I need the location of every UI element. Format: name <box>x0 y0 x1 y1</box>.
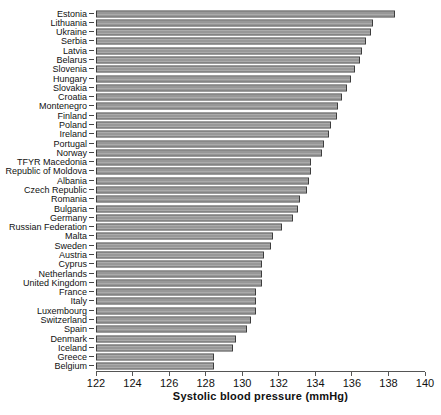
chart-row: Cyprus <box>96 260 424 269</box>
chart-row: Finland <box>96 111 424 120</box>
chart-row: Ukraine <box>96 28 424 37</box>
chart-row: Belarus <box>96 55 424 64</box>
chart-row: Bulgaria <box>96 204 424 213</box>
y-tick-mark <box>89 291 94 292</box>
bar <box>96 122 331 129</box>
y-tick-mark <box>89 87 94 88</box>
bar <box>96 289 256 296</box>
y-tick-mark <box>89 143 94 144</box>
chart-row: Portugal <box>96 139 424 148</box>
bar <box>96 335 236 342</box>
y-tick-mark <box>89 245 94 246</box>
x-tick-label: 136 <box>343 377 361 389</box>
bar <box>96 270 262 277</box>
y-tick-mark <box>89 115 94 116</box>
chart-row: Germany <box>96 213 424 222</box>
bar <box>96 149 322 156</box>
chart-row: Norway <box>96 148 424 157</box>
y-tick-mark <box>89 170 94 171</box>
bar <box>96 94 342 101</box>
chart-row: Czech Republic <box>96 185 424 194</box>
y-tick-mark <box>89 254 94 255</box>
y-tick-mark <box>89 105 94 106</box>
bar <box>96 66 355 73</box>
y-tick-mark <box>89 263 94 264</box>
chart-row: Poland <box>96 120 424 129</box>
bar <box>96 196 300 203</box>
x-tick-mark <box>205 372 206 376</box>
bar <box>96 38 366 45</box>
bar <box>96 186 307 193</box>
chart-row: Iceland <box>96 343 424 352</box>
chart-row: Ireland <box>96 130 424 139</box>
y-tick-mark <box>89 310 94 311</box>
bar <box>96 205 298 212</box>
y-tick-mark <box>89 347 94 348</box>
bar <box>96 214 293 221</box>
y-tick-mark <box>89 180 94 181</box>
y-tick-mark <box>89 198 94 199</box>
chart-row: United Kingdom <box>96 278 424 287</box>
chart-row: Latvia <box>96 46 424 55</box>
chart-row: Austria <box>96 250 424 259</box>
y-tick-mark <box>89 208 94 209</box>
y-tick-mark <box>89 161 94 162</box>
chart-row: Spain <box>96 325 424 334</box>
bar <box>96 84 347 91</box>
x-tick-mark <box>169 372 170 376</box>
chart-row: Lithuania <box>96 18 424 27</box>
bar <box>96 103 338 110</box>
x-tick-label: 140 <box>416 377 434 389</box>
chart-row: Albania <box>96 176 424 185</box>
bar <box>96 279 262 286</box>
bar <box>96 159 311 166</box>
chart-row: Russian Federation <box>96 222 424 231</box>
chart-row: Estonia <box>96 9 424 18</box>
x-tick-label: 126 <box>160 377 178 389</box>
chart-row: Netherlands <box>96 269 424 278</box>
x-tick-mark <box>278 372 279 376</box>
country-label: Belgium <box>54 362 87 371</box>
chart-row: Serbia <box>96 37 424 46</box>
x-tick-label: 132 <box>270 377 288 389</box>
y-tick-mark <box>89 68 94 69</box>
x-tick-label: 128 <box>196 377 214 389</box>
chart-row: France <box>96 287 424 296</box>
bar <box>96 233 273 240</box>
bar <box>96 363 214 370</box>
y-tick-mark <box>89 365 94 366</box>
chart-row: Montenegro <box>96 102 424 111</box>
bar <box>96 242 271 249</box>
chart-row: Hungary <box>96 74 424 83</box>
bar <box>96 251 264 258</box>
bar <box>96 57 360 64</box>
chart-row: Slovenia <box>96 65 424 74</box>
bar <box>96 298 256 305</box>
x-tick-label: 138 <box>379 377 397 389</box>
chart-row: Romania <box>96 195 424 204</box>
x-axis-title: Systolic blood pressure (mmHg) <box>96 390 425 402</box>
y-tick-mark <box>89 217 94 218</box>
x-tick-mark <box>242 372 243 376</box>
bar <box>96 131 329 138</box>
bar <box>96 307 256 314</box>
y-tick-mark <box>89 338 94 339</box>
bar <box>96 47 362 54</box>
chart-row: TFYR Macedonia <box>96 158 424 167</box>
x-tick-mark <box>425 372 426 376</box>
bar <box>96 224 282 231</box>
bar <box>96 344 233 351</box>
x-tick-mark <box>315 372 316 376</box>
y-tick-mark <box>89 50 94 51</box>
y-tick-mark <box>89 226 94 227</box>
chart-row: Switzerland <box>96 315 424 324</box>
chart-row: Greece <box>96 352 424 361</box>
bar <box>96 29 371 36</box>
x-tick-mark <box>132 372 133 376</box>
bar <box>96 177 309 184</box>
chart-row: Croatia <box>96 93 424 102</box>
y-tick-mark <box>89 78 94 79</box>
y-tick-mark <box>89 59 94 60</box>
chart-row: Belgium <box>96 362 424 371</box>
x-tick-mark <box>388 372 389 376</box>
